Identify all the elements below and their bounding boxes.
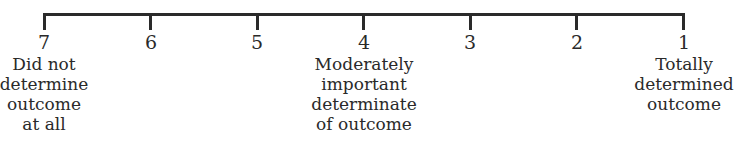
- anchor-4-line-3: determinate: [299, 94, 429, 114]
- anchor-description-7: Did not determine outcome at all: [0, 54, 109, 134]
- anchor-1-line-2: determined: [619, 74, 734, 94]
- tick-4: [362, 13, 365, 30]
- anchor-description-4: Moderately important determinate of outc…: [299, 54, 429, 134]
- scale-label-5: 5: [237, 31, 277, 53]
- anchor-4-line-2: important: [299, 74, 429, 94]
- scale-label-2: 2: [557, 31, 597, 53]
- scale-label-4: 4: [344, 31, 384, 53]
- scale-label-7: 7: [24, 31, 64, 53]
- tick-7: [43, 13, 46, 30]
- anchor-description-1: Totally determined outcome: [619, 54, 734, 114]
- anchor-7-line-1: Did not: [0, 54, 109, 74]
- anchor-4-line-1: Moderately: [299, 54, 429, 74]
- anchor-1-line-1: Totally: [619, 54, 734, 74]
- scale-label-3: 3: [450, 31, 490, 53]
- anchor-1-line-3: outcome: [619, 94, 734, 114]
- anchor-4-line-4: of outcome: [299, 114, 429, 134]
- anchor-7-line-4: at all: [0, 114, 109, 134]
- scale-label-1: 1: [664, 31, 704, 53]
- tick-5: [256, 13, 259, 30]
- tick-3: [469, 13, 472, 30]
- anchor-7-line-2: determine: [0, 74, 109, 94]
- anchor-7-line-3: outcome: [0, 94, 109, 114]
- tick-6: [149, 13, 152, 30]
- tick-2: [575, 13, 578, 30]
- tick-1: [682, 13, 685, 30]
- scale-label-6: 6: [131, 31, 171, 53]
